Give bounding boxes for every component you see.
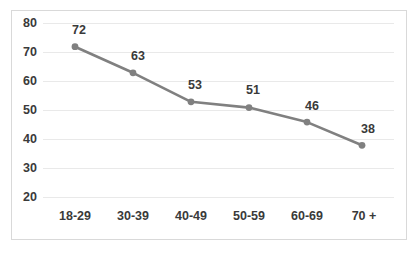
data-point-marker-60-69: [304, 119, 311, 126]
data-point-marker-50-59: [246, 104, 253, 111]
x-axis-tick-labels: 18-29 30-39 40-49 50-59 60-69 70 +: [59, 209, 376, 223]
data-point-labels: 72 63 53 51 46 38: [72, 23, 375, 136]
x-tick-label-70-plus: 70 +: [352, 209, 377, 223]
data-label-40-49: 53: [188, 78, 202, 92]
y-axis-tick-labels: 80 70 60 50 40 30 20: [23, 16, 37, 204]
x-tick-label-30-39: 30-39: [117, 209, 149, 223]
y-tick-label-20: 20: [23, 190, 37, 204]
x-tick-label-50-59: 50-59: [233, 209, 265, 223]
data-point-marker-40-49: [188, 98, 195, 105]
data-point-marker-30-39: [130, 69, 137, 76]
data-label-18-29: 72: [72, 23, 86, 37]
y-tick-label-30: 30: [23, 161, 37, 175]
y-tick-label-80: 80: [23, 16, 37, 30]
gridlines: [43, 24, 394, 198]
y-tick-label-40: 40: [23, 132, 37, 146]
y-tick-label-70: 70: [23, 45, 37, 59]
y-tick-label-60: 60: [23, 74, 37, 88]
data-label-60-69: 46: [305, 99, 319, 113]
data-point-marker-18-29: [72, 43, 79, 50]
x-tick-label-40-49: 40-49: [175, 209, 207, 223]
data-series: [72, 43, 366, 148]
series-line-path: [75, 47, 362, 146]
data-label-50-59: 51: [246, 83, 260, 97]
x-tick-label-18-29: 18-29: [59, 209, 91, 223]
y-tick-label-50: 50: [23, 103, 37, 117]
data-label-70-plus: 38: [361, 122, 375, 136]
x-tick-label-60-69: 60-69: [291, 209, 323, 223]
chart-container: 80 70 60 50 40 30 20 72 63 53 51 46 38 1: [11, 10, 407, 240]
line-chart: 80 70 60 50 40 30 20 72 63 53 51 46 38 1: [12, 11, 406, 239]
data-point-marker-70-plus: [359, 142, 366, 149]
data-label-30-39: 63: [131, 49, 145, 63]
